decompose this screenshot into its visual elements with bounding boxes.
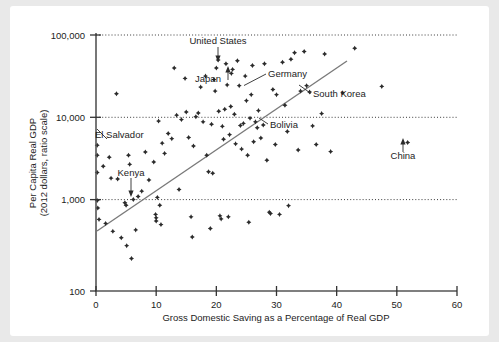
data-point — [190, 234, 195, 239]
data-point — [193, 114, 198, 119]
data-point — [261, 123, 266, 128]
x-tick-label-40: 40 — [331, 299, 342, 310]
data-points — [95, 46, 410, 261]
data-point — [225, 82, 230, 87]
data-point — [183, 76, 188, 81]
data-point — [153, 212, 158, 217]
data-point — [157, 203, 162, 208]
data-point — [250, 63, 255, 68]
data-point — [216, 109, 221, 114]
data-point — [249, 92, 254, 97]
annotation-japan: Japan — [195, 73, 221, 84]
data-point — [196, 110, 201, 115]
data-point — [228, 104, 233, 109]
annotation-china: China — [391, 150, 417, 161]
data-point — [198, 85, 203, 90]
data-point — [302, 49, 307, 54]
data-point — [273, 142, 278, 147]
data-point — [258, 136, 263, 141]
data-point — [222, 107, 227, 112]
data-point — [298, 89, 303, 94]
data-point — [292, 50, 297, 55]
annotation-south-korea: South Korea — [313, 88, 367, 99]
data-point — [208, 226, 213, 231]
data-point — [227, 132, 232, 137]
data-point — [322, 51, 327, 56]
data-point — [133, 227, 138, 232]
annotation-united-states: United States — [189, 35, 246, 46]
data-point — [101, 164, 106, 169]
data-point — [296, 147, 301, 152]
data-point — [264, 158, 269, 163]
data-point — [277, 212, 282, 217]
trend-line — [97, 61, 347, 231]
data-point — [119, 235, 124, 240]
data-point — [172, 66, 177, 71]
data-point — [136, 194, 141, 199]
data-point — [156, 119, 161, 124]
data-point — [239, 147, 244, 152]
data-point — [232, 112, 237, 117]
x-tick-label-20: 20 — [211, 299, 222, 310]
x-tick-label-60: 60 — [452, 299, 463, 310]
data-point — [210, 171, 215, 176]
data-point — [158, 222, 163, 227]
scatter-chart-figure: 100,000 10,000 1,000 100 0102030405060 G… — [0, 0, 499, 342]
data-point — [191, 144, 196, 149]
data-point — [166, 131, 171, 136]
x-axis-title: Gross Domestic Saving as a Percentage of… — [162, 312, 389, 323]
data-point — [253, 119, 258, 124]
data-point — [129, 256, 134, 261]
data-point — [209, 122, 214, 127]
y-tick-label-100: 100 — [69, 286, 85, 297]
arrowhead-united-states — [215, 56, 220, 63]
data-point — [131, 197, 136, 202]
data-point — [221, 137, 226, 142]
arrowhead-kenya — [128, 191, 133, 198]
data-point — [288, 57, 293, 62]
data-point — [319, 111, 324, 116]
data-point — [146, 177, 151, 182]
data-point — [223, 61, 228, 66]
data-point — [206, 169, 211, 174]
data-point — [251, 139, 256, 144]
data-point — [230, 67, 235, 72]
y-axis-title-line2: (2012 dollars, ratio scale) — [38, 110, 49, 217]
x-axis-tick-labels: 0102030405060 — [93, 299, 462, 310]
data-point — [107, 155, 112, 160]
data-point — [328, 149, 333, 154]
data-point — [255, 125, 260, 130]
data-point — [162, 151, 167, 156]
data-point — [124, 243, 129, 248]
y-axis-title-line1: Per Capita Real GDP — [27, 118, 38, 208]
data-point — [220, 124, 225, 129]
x-tick-label-30: 30 — [271, 299, 282, 310]
data-point — [405, 140, 410, 145]
arrowhead-china — [400, 138, 405, 145]
data-point — [226, 214, 231, 219]
data-point — [237, 83, 242, 88]
data-point — [110, 229, 115, 234]
y-tick-label-1000: 1,000 — [61, 194, 85, 205]
leader-germany — [244, 74, 266, 86]
data-point — [103, 221, 108, 226]
data-point — [270, 87, 275, 92]
x-tick-label-0: 0 — [93, 299, 98, 310]
data-point — [160, 141, 165, 146]
data-point — [184, 110, 189, 115]
data-point — [97, 217, 102, 222]
data-point — [169, 136, 174, 141]
data-point — [244, 98, 249, 103]
data-point — [246, 220, 251, 225]
annotation-el-salvador: El Salvador — [95, 129, 144, 140]
y-tick-label-100000: 100,000 — [51, 30, 85, 41]
data-point — [213, 89, 218, 94]
data-point — [189, 214, 194, 219]
data-point — [256, 108, 261, 113]
arrowhead-japan — [225, 66, 230, 73]
data-point — [262, 61, 267, 66]
data-point — [151, 159, 156, 164]
gridlines — [96, 35, 457, 200]
data-point — [177, 187, 182, 192]
data-point — [201, 119, 206, 124]
